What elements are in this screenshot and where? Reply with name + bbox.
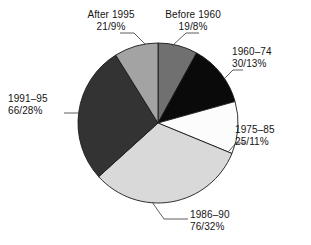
slice-label-1975-85-value: 25/11% [235,136,309,148]
slice-label-1960-74: 1960–74 30/13% [232,46,308,70]
slice-label-1991-95: 1991–95 66/28% [8,93,88,117]
pie-chart: Before 1960 19/8% After 1995 21/9% 1960–… [0,0,311,245]
leader-line-1986-90 [152,202,188,219]
slice-label-1991-95-value: 66/28% [8,105,88,117]
slice-label-before-1960: Before 1960 19/8% [150,9,236,33]
leader-line-after-1995 [120,33,146,45]
slice-label-after-1995: After 1995 21/9% [70,9,152,33]
slice-label-1960-74-name: 1960–74 [232,46,308,58]
slice-label-1986-90-value: 76/32% [190,221,272,233]
pie-slice-group [78,43,238,203]
slice-label-1986-90-name: 1986–90 [190,209,272,221]
slice-label-before-1960-name: Before 1960 [150,9,236,21]
slice-label-1986-90: 1986–90 76/32% [190,209,272,233]
leader-line-before-1960 [172,33,199,46]
slice-label-1960-74-value: 30/13% [232,58,308,70]
slice-label-1975-85-name: 1975–85 [235,124,309,136]
slice-label-before-1960-value: 19/8% [150,21,236,33]
slice-label-1975-85: 1975–85 25/11% [235,124,309,148]
slice-label-after-1995-name: After 1995 [70,9,152,21]
slice-label-after-1995-value: 21/9% [70,21,152,33]
leader-line-1960-74 [225,70,243,78]
slice-label-1991-95-name: 1991–95 [8,93,88,105]
